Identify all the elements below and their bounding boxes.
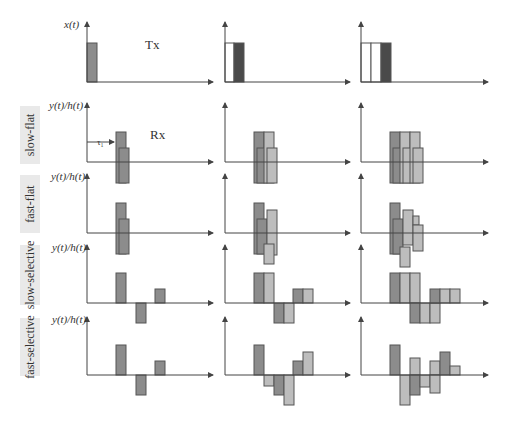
pulse-bar [430, 303, 440, 323]
pulse-bar [400, 247, 410, 267]
pulse-bar [264, 375, 274, 386]
pulse-bar [410, 375, 420, 395]
pulse-bar [410, 358, 420, 375]
pulse-bar [293, 361, 303, 375]
pulse-bar [440, 352, 450, 375]
pulse-bar [430, 375, 440, 393]
pulse-bar [254, 345, 264, 375]
panel-tx-col3 [361, 22, 488, 82]
panel-tx-col2 [225, 22, 350, 82]
panel-fast-flat-col2 [225, 174, 350, 264]
ylabel-row-slow-selective: y(t)/h(t) [52, 241, 86, 253]
row-label-slow-selective: slow-selective [20, 245, 40, 305]
rx-label: Rx [150, 127, 165, 143]
row-label-fast-flat: fast-flat [20, 175, 40, 233]
pulse-bar [119, 148, 129, 183]
pulse-bar [420, 303, 430, 323]
pulse-bar [430, 289, 440, 303]
panel-slow-flat-col3 [361, 103, 488, 183]
pulse-bar [264, 244, 274, 264]
pulse-bar [413, 225, 423, 251]
pulse-bar [264, 273, 274, 303]
panel-grid [87, 22, 488, 405]
pulse-bar [119, 219, 129, 254]
pulse-bar [413, 216, 419, 225]
pulse-bar [361, 43, 371, 82]
pulse-bar [136, 303, 146, 323]
tx-label: Tx [145, 37, 159, 53]
panel-fast-flat-col1 [87, 174, 213, 254]
pulse-bar [450, 289, 460, 303]
pulse-bar [410, 303, 420, 323]
pulse-bar [284, 375, 294, 405]
panel-fast-selective-col2 [225, 317, 350, 405]
pulse-bar [116, 345, 126, 375]
pulse-bar [284, 303, 294, 323]
ylabel-row-fast-selective: y(t)/h(t) [52, 313, 86, 325]
pulse-bar [116, 273, 126, 303]
pulse-bar [293, 289, 303, 303]
pulse-bar [410, 273, 420, 303]
pulse-bar [420, 375, 430, 387]
panel-slow-selective-col2 [225, 245, 350, 323]
pulse-bar [450, 366, 460, 375]
panel-slow-flat-col1 [87, 103, 213, 183]
pulse-bar [403, 210, 413, 245]
panel-fast-selective-col1 [87, 317, 213, 395]
pulse-bar [274, 375, 284, 395]
panel-fast-selective-col3 [361, 317, 488, 405]
row-label-slow-flat: slow-flat [20, 106, 40, 164]
panel-slow-selective-col1 [87, 245, 213, 323]
figure-canvas [0, 0, 505, 423]
pulse-bar [254, 273, 264, 303]
panel-fast-flat-col3 [361, 174, 488, 267]
pulse-bar [440, 289, 450, 303]
pulse-bar [274, 303, 284, 323]
ylabel-row-fast-flat: y(t)/h(t) [51, 170, 85, 182]
pulse-bar [430, 361, 440, 375]
pulse-bar [303, 289, 313, 303]
pulse-bar [225, 43, 234, 82]
pulse-bar [136, 375, 146, 395]
panel-slow-flat-col2 [225, 103, 350, 183]
pulse-bar [267, 148, 277, 183]
pulse-bar [413, 148, 423, 183]
pulse-bar [155, 289, 165, 303]
ylabel-row-slow-flat: y(t)/h(t) [49, 99, 83, 111]
pulse-bar [390, 345, 400, 375]
pulse-bar [303, 352, 313, 375]
pulse-bar [155, 361, 165, 375]
row-label-fast-selective: fast-selective [20, 318, 40, 376]
pulse-bar [400, 273, 410, 303]
pulse-bar [390, 273, 400, 303]
ylabel-row-tx: x(t) [64, 18, 79, 30]
pulse-bar [87, 43, 97, 82]
panel-slow-selective-col3 [361, 245, 488, 323]
pulse-bar [234, 43, 244, 82]
tau-label: τ₁ [97, 137, 104, 147]
pulse-bar [400, 375, 410, 405]
pulse-bar [371, 43, 381, 82]
pulse-bar [381, 43, 391, 82]
